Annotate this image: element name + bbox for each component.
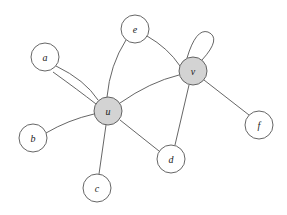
node-c: c <box>83 174 111 202</box>
node-label: b <box>31 133 36 144</box>
edge-u-b <box>46 114 94 133</box>
node-u: u <box>94 97 122 125</box>
edge-v-d <box>175 85 189 145</box>
node-label: u <box>106 106 111 117</box>
edge-a-u-1 <box>56 66 98 100</box>
edge-e-u <box>107 40 126 97</box>
node-b: b <box>19 124 47 152</box>
node-d: d <box>157 145 185 173</box>
node-a: a <box>31 43 59 71</box>
edge-e-v <box>147 36 180 66</box>
edge-v-loop <box>187 32 214 60</box>
node-label: c <box>95 183 100 194</box>
graph-diagram: a e v u b c d f <box>0 0 287 215</box>
edge-u-c <box>99 125 106 174</box>
edge-v-f <box>204 80 249 115</box>
edge-u-v <box>120 75 179 103</box>
edge-u-d <box>120 120 159 151</box>
node-label: e <box>133 24 138 35</box>
node-label: v <box>191 66 196 77</box>
node-label: a <box>43 52 48 63</box>
nodes: a e v u b c d f <box>19 15 273 202</box>
node-v: v <box>179 57 207 85</box>
node-f: f <box>245 111 273 139</box>
node-e: e <box>121 15 149 43</box>
edges <box>46 32 249 174</box>
